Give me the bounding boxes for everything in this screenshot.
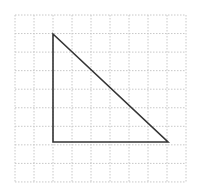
grid-diagram (0, 0, 201, 196)
diagram-canvas (0, 0, 201, 196)
grid-lines (15, 15, 186, 182)
